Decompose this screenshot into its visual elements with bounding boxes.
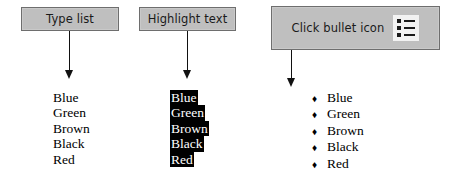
- step-box-content: Click bullet icon: [292, 15, 420, 41]
- arrow-head: [65, 70, 73, 79]
- bullet-list-icon-bar: [404, 34, 415, 36]
- list-item: Black: [53, 136, 90, 151]
- bullet-list-icon-row: [397, 26, 415, 30]
- arrow-shaft: [69, 31, 70, 71]
- step-box-highlight-text[interactable]: Highlight text: [139, 7, 236, 31]
- list-item: ♦ Blue: [327, 90, 364, 106]
- step-box-label: Highlight text: [148, 12, 228, 26]
- list-item-label: Red: [170, 152, 194, 167]
- arrow-shaft: [291, 50, 292, 79]
- bullet-list-icon-dot: [397, 33, 401, 37]
- list-item-label: Red: [327, 156, 349, 171]
- bullet-list-icon-row: [397, 33, 415, 37]
- list-item: Green: [53, 105, 90, 120]
- diamond-bullet-icon: ♦: [312, 107, 327, 122]
- bullet-list-icon-bar: [404, 27, 415, 29]
- diamond-bullet-icon: ♦: [312, 91, 327, 106]
- step-box-click-bullet-icon[interactable]: Click bullet icon: [271, 6, 440, 50]
- bullet-list-icon-row: [397, 19, 415, 23]
- bullet-list-icon-dot: [397, 19, 401, 23]
- bullet-list-icon[interactable]: [393, 15, 419, 41]
- arrow-head: [287, 78, 295, 87]
- list-item-label: Black: [327, 139, 359, 154]
- list-item-label: Blue: [327, 90, 353, 105]
- arrow-head: [183, 70, 191, 79]
- bulleted-word-list: ♦ Blue ♦ Green ♦ Brown ♦ Black ♦ Red: [327, 90, 364, 172]
- step-box-type-list[interactable]: Type list: [21, 7, 119, 31]
- list-item: Blue: [53, 90, 90, 105]
- list-item-highlighted: Red: [170, 152, 209, 167]
- list-item: ♦ Red: [327, 156, 364, 172]
- list-item-label: Green: [170, 105, 205, 120]
- bullet-list-icon-dot: [397, 26, 401, 30]
- arrow-shaft: [187, 31, 188, 71]
- list-item-highlighted: Green: [170, 105, 209, 120]
- bullet-list-icon-bar: [404, 20, 415, 22]
- diamond-bullet-icon: ♦: [312, 140, 327, 155]
- step-box-label: Click bullet icon: [292, 21, 385, 35]
- list-item: ♦ Green: [327, 106, 364, 122]
- diamond-bullet-icon: ♦: [312, 157, 327, 172]
- list-item-label: Brown: [170, 121, 209, 136]
- list-item-label: Black: [170, 136, 204, 151]
- list-item: Red: [53, 152, 90, 167]
- list-item: ♦ Black: [327, 139, 364, 155]
- list-item-highlighted: Brown: [170, 121, 209, 136]
- plain-word-list: Blue Green Brown Black Red: [53, 90, 90, 167]
- highlighted-word-list: Blue Green Brown Black Red: [170, 90, 209, 167]
- list-item-highlighted: Black: [170, 136, 209, 151]
- list-item-highlighted: Blue: [170, 90, 209, 105]
- step-box-label: Type list: [46, 12, 94, 26]
- diagram-canvas: Type list Highlight text Click bullet ic…: [0, 0, 457, 182]
- list-item: Brown: [53, 121, 90, 136]
- diamond-bullet-icon: ♦: [312, 124, 327, 139]
- list-item-label: Blue: [170, 90, 198, 105]
- list-item-label: Brown: [327, 123, 364, 138]
- list-item-label: Green: [327, 106, 360, 121]
- list-item: ♦ Brown: [327, 123, 364, 139]
